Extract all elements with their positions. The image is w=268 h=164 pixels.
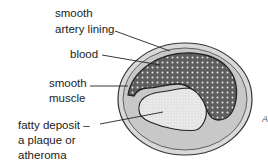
label-smooth-muscle-1: smooth — [49, 76, 87, 90]
label-blood: blood — [70, 47, 98, 61]
label-smooth-lining-2: artery lining — [55, 22, 114, 36]
label-fatty-2: a plaque or — [18, 133, 76, 147]
edge-mark: A — [262, 112, 268, 126]
label-fatty-3: atheroma — [18, 148, 67, 162]
label-smooth-lining-1: smooth — [55, 6, 93, 20]
leader-lining — [115, 31, 170, 51]
label-fatty-1: fatty deposit – — [18, 118, 90, 132]
label-smooth-muscle-2: muscle — [49, 91, 85, 105]
